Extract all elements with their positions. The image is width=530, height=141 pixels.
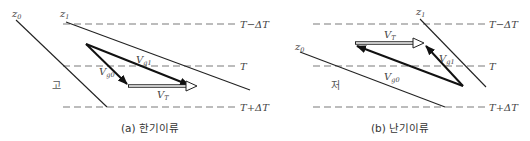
height-contour-z1 bbox=[420, 19, 486, 87]
caption-b: (b) 난기이류 bbox=[371, 122, 429, 134]
height-label-z1: z1 bbox=[59, 8, 69, 21]
height-contour-z0 bbox=[300, 52, 445, 107]
vector-label-vt: VT bbox=[157, 89, 169, 102]
caption-a: (a) 한기이류 bbox=[121, 122, 179, 134]
panel-warm-advection: T−ΔT T T+ΔT z0 z1 Vg0 Vg1 VT 저 (b) 난기이류 bbox=[294, 6, 519, 134]
isotherm-label-middle: T bbox=[240, 61, 248, 72]
height-label-z0: z0 bbox=[294, 41, 304, 54]
isotherm-label-lower: T+ΔT bbox=[240, 102, 270, 113]
thermal-wind-diagram: T−ΔT T T+ΔT z0 z1 Vg0 Vg1 VT 고 (a) 한기이류 … bbox=[0, 0, 530, 141]
vector-label-vg1: Vg1 bbox=[439, 53, 455, 66]
high-pressure-label: 고 bbox=[52, 80, 61, 91]
low-pressure-label: 저 bbox=[331, 80, 340, 91]
height-contour-z0 bbox=[16, 20, 107, 107]
isotherm-label-middle: T bbox=[489, 61, 497, 72]
height-label-z1: z1 bbox=[415, 6, 425, 19]
isotherm-label-upper: T−ΔT bbox=[489, 19, 519, 30]
isotherm-label-upper: T−ΔT bbox=[240, 19, 270, 30]
vector-label-vg0: Vg0 bbox=[99, 66, 115, 79]
panel-cold-advection: T−ΔT T T+ΔT z0 z1 Vg0 Vg1 VT 고 (a) 한기이류 bbox=[11, 8, 270, 134]
isotherm-label-lower: T+ΔT bbox=[489, 102, 519, 113]
height-label-z0: z0 bbox=[11, 8, 21, 21]
vector-label-vt: VT bbox=[384, 29, 396, 42]
vector-label-vg0: Vg0 bbox=[384, 71, 400, 84]
height-contour-z1 bbox=[66, 22, 250, 90]
